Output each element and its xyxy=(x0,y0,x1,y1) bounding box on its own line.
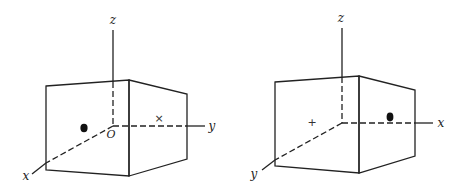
right-charge-dot xyxy=(387,113,394,122)
right-y-axis xyxy=(262,160,275,170)
left-x-axis xyxy=(32,163,46,174)
right-y-label: y xyxy=(250,167,258,181)
left-cross-marker: × xyxy=(154,112,163,125)
right-box-front-face xyxy=(275,76,359,173)
right-figure: + z x y xyxy=(250,11,445,181)
right-z-label: z xyxy=(337,11,345,25)
left-figure: × z y x O xyxy=(23,13,216,183)
left-z-label: z xyxy=(109,13,117,27)
left-y-label: y xyxy=(208,119,216,133)
right-plus-marker: + xyxy=(307,116,316,129)
right-box-right-face xyxy=(359,76,415,173)
left-origin-label: O xyxy=(106,128,115,141)
left-box-right-face xyxy=(129,80,187,176)
diagram-canvas: × z y x O + z x y xyxy=(0,0,464,191)
left-x-axis-hidden xyxy=(46,126,113,163)
right-x-label: x xyxy=(438,116,445,130)
left-x-label: x xyxy=(23,169,30,183)
left-charge-dot xyxy=(80,124,87,132)
